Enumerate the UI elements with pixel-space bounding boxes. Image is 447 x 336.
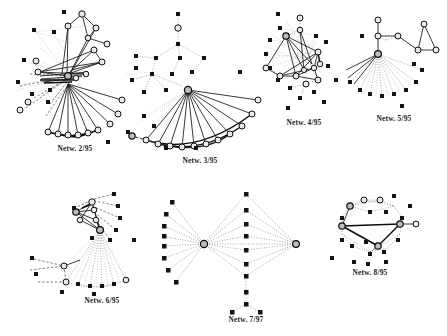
- network-panel-netw-6-95: Netw. 6/95: [30, 186, 170, 296]
- panel-caption: Netw. 8/95: [353, 268, 388, 277]
- edges-solid: [266, 30, 320, 80]
- square-nodes: [330, 194, 412, 266]
- panel-caption: Netw. 2/95: [58, 144, 93, 153]
- circle-nodes: [263, 15, 323, 87]
- edges-solid: [346, 20, 436, 84]
- network-panel-netw-5-95: Netw. 5/95: [346, 6, 446, 114]
- edges-faint-halo: [264, 18, 320, 92]
- edges-fan-solid: [146, 90, 258, 148]
- circle-nodes: [61, 199, 129, 285]
- network-panel-netw-4-95: Netw. 4/95: [256, 6, 352, 118]
- panel-caption: Netw. 7/97: [229, 315, 264, 324]
- circle-nodes: [339, 197, 419, 249]
- panel-caption: Netw. 5/95: [377, 114, 412, 123]
- panel-caption: Netw. 3/95: [183, 156, 218, 165]
- network-panel-netw-8-95: Netw. 8/95: [308, 190, 428, 270]
- edges-dotted-fan: [66, 230, 126, 287]
- edges-dotted-tree: [126, 14, 204, 92]
- edges-dotted: [270, 18, 318, 98]
- square-nodes: [162, 192, 263, 315]
- panel-caption: Netw. 6/95: [85, 296, 120, 305]
- square-nodes: [264, 12, 338, 110]
- edges-center-fan: [204, 194, 296, 312]
- square-nodes: [348, 34, 424, 108]
- circle-nodes: [375, 17, 439, 57]
- network-figure: Netw. 2/95: [0, 0, 447, 336]
- circle-nodes: [129, 25, 261, 150]
- panel-caption: Netw. 4/95: [287, 118, 322, 127]
- edges-fan-solid: [48, 84, 122, 137]
- network-panel-netw-3-95: Netw. 3/95: [126, 8, 266, 150]
- network-panel-netw-7-97: Netw. 7/97: [162, 188, 304, 316]
- network-panel-netw-2-95: Netw. 2/95: [10, 4, 140, 144]
